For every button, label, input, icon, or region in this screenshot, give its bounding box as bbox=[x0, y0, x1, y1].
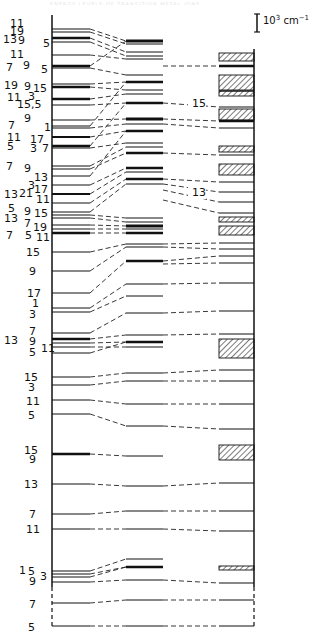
connector-line bbox=[163, 263, 219, 264]
level-label: 11 bbox=[26, 523, 40, 536]
connector-line bbox=[90, 147, 126, 166]
connector-labels: 1513 bbox=[188, 97, 206, 199]
connector-line bbox=[90, 82, 126, 84]
hatched-band bbox=[219, 91, 254, 96]
level-label: 13 bbox=[3, 33, 17, 46]
connector-line bbox=[90, 296, 126, 312]
connector-label: 15 bbox=[192, 97, 206, 110]
level-label: 11 bbox=[36, 231, 50, 244]
connector-line bbox=[90, 179, 126, 203]
level-label: 5 bbox=[28, 409, 35, 422]
level-label: 5 bbox=[29, 346, 36, 359]
hatched-band bbox=[219, 164, 254, 175]
level-label: 9 bbox=[29, 453, 36, 466]
connector-line bbox=[90, 218, 126, 222]
connector-line bbox=[90, 559, 126, 571]
connector-line bbox=[163, 124, 219, 128]
connector-line bbox=[163, 247, 219, 249]
connector-line bbox=[163, 580, 219, 583]
level-label: 7 bbox=[6, 229, 13, 242]
connector-line bbox=[90, 55, 126, 59]
level-label: 13 bbox=[24, 478, 38, 491]
level-label: 9 bbox=[23, 59, 30, 72]
level-label: 13 bbox=[4, 188, 18, 201]
level-label: 5 bbox=[25, 229, 32, 242]
hatched-band bbox=[219, 75, 254, 90]
energy-level-diagram: 11191395117951991511315,5971111753779133… bbox=[0, 0, 312, 641]
connector-line bbox=[163, 243, 219, 244]
connector-label: 13 bbox=[192, 186, 206, 199]
connector-line bbox=[90, 313, 126, 333]
connector-line bbox=[90, 38, 126, 52]
level-label: 15,5 bbox=[17, 98, 42, 111]
connector-line bbox=[90, 414, 126, 426]
level-label: 5 bbox=[7, 140, 14, 153]
connector-line bbox=[163, 119, 219, 121]
hatched-band bbox=[219, 339, 254, 358]
connector-line bbox=[90, 153, 126, 169]
connector-line bbox=[90, 131, 126, 176]
connector-line bbox=[90, 215, 126, 218]
connector-line bbox=[90, 32, 126, 44]
level-label: 15 bbox=[33, 82, 47, 95]
level-label: 9 bbox=[29, 265, 36, 278]
connector-line bbox=[90, 567, 126, 574]
connector-line bbox=[163, 256, 219, 261]
level-label: 3 bbox=[28, 381, 35, 394]
connector-line bbox=[90, 454, 126, 456]
connector-line bbox=[163, 426, 219, 429]
level-label: 9 bbox=[29, 575, 36, 588]
connector-line bbox=[90, 225, 126, 226]
connector-line bbox=[90, 580, 126, 582]
connector-line bbox=[90, 184, 126, 212]
hatched-band bbox=[219, 217, 254, 222]
connector-line bbox=[90, 68, 126, 75]
connector-line bbox=[90, 247, 126, 271]
connector-line bbox=[90, 600, 126, 603]
level-label: 7 bbox=[6, 61, 13, 74]
connector-line bbox=[90, 373, 126, 377]
level-label: 1 bbox=[44, 121, 51, 134]
level-label: 15 bbox=[26, 246, 40, 259]
connector-line bbox=[90, 261, 126, 293]
connector-line bbox=[90, 131, 126, 137]
connector-line bbox=[90, 143, 126, 148]
level-label: 7 bbox=[42, 142, 49, 155]
connector-line bbox=[163, 334, 219, 335]
connector-line bbox=[90, 484, 126, 486]
connector-line bbox=[163, 153, 219, 155]
connector-line bbox=[163, 311, 219, 313]
level-label: 21 bbox=[19, 187, 33, 200]
connector-line bbox=[90, 567, 126, 577]
level-label: 11 bbox=[41, 342, 55, 355]
level-label: 11 bbox=[10, 48, 24, 61]
left-levels bbox=[52, 29, 90, 626]
connector-line bbox=[90, 511, 126, 514]
connector-line bbox=[90, 342, 126, 353]
connector-line bbox=[90, 381, 126, 385]
hatched-band bbox=[219, 445, 254, 460]
level-label: 3 bbox=[40, 570, 47, 583]
level-label: 7 bbox=[29, 598, 36, 611]
connector-line bbox=[90, 400, 126, 404]
connector-line bbox=[90, 42, 126, 56]
connector-line bbox=[163, 370, 219, 373]
middle-levels bbox=[126, 41, 163, 626]
hatched-band bbox=[219, 109, 254, 120]
connector-line bbox=[163, 283, 219, 284]
level-label: 15 bbox=[34, 207, 48, 220]
connector-line bbox=[163, 179, 219, 182]
scale-bar-label: 103 cm−1 bbox=[263, 14, 309, 26]
level-label: 13 bbox=[4, 212, 18, 225]
connector-line bbox=[90, 94, 126, 99]
connector-line bbox=[90, 103, 126, 146]
level-label: 7 bbox=[6, 160, 13, 173]
connector-line bbox=[90, 335, 126, 339]
level-label: 9 bbox=[24, 162, 31, 175]
level-label: 11 bbox=[36, 193, 50, 206]
hatched-band bbox=[219, 53, 254, 61]
scale-bar: 103 cm−1 bbox=[254, 14, 309, 32]
connector-line bbox=[163, 483, 219, 486]
level-label: 9 bbox=[18, 34, 25, 47]
level-label: 7 bbox=[29, 508, 36, 521]
